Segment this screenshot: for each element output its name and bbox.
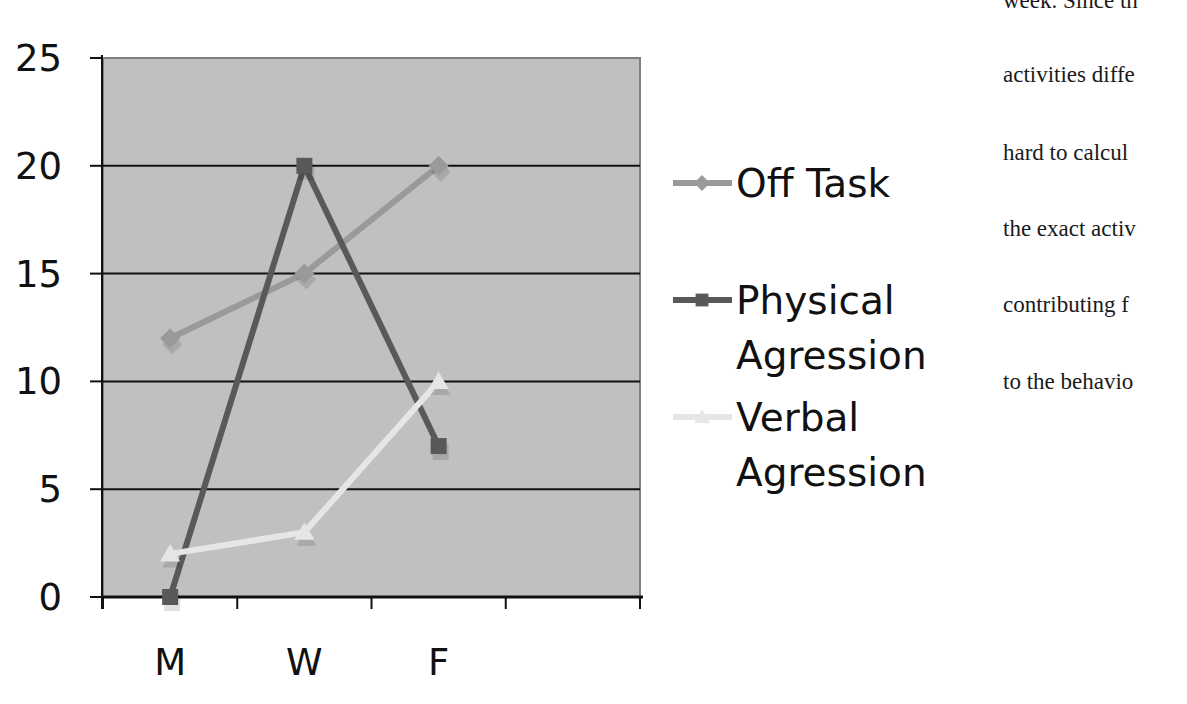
legend-label: Agression <box>736 450 927 495</box>
y-tick-label: 25 <box>15 37 62 80</box>
legend: Off TaskPhysicalAgressionVerbalAgression <box>673 161 927 495</box>
square-marker-icon <box>162 589 178 605</box>
x-tick-label: W <box>286 641 323 684</box>
y-tick-label: 0 <box>38 576 62 619</box>
plot-background <box>103 58 640 597</box>
text-line: contributing f <box>1003 292 1129 318</box>
y-tick-label: 5 <box>38 468 62 511</box>
text-line: activities diffe <box>1003 62 1135 88</box>
y-tick-label: 15 <box>15 253 62 296</box>
square-marker-icon <box>431 438 447 454</box>
legend-label: Off Task <box>736 161 891 206</box>
legend-label: Agression <box>736 333 927 378</box>
line-chart: 0510152025 MWF Off TaskPhysicalAgression… <box>0 0 1187 704</box>
x-axis-tick-labels: MWF <box>154 641 449 684</box>
diamond-marker-icon <box>694 175 710 191</box>
x-tick-label: M <box>154 641 186 684</box>
legend-item: VerbalAgression <box>673 395 927 495</box>
legend-label: Physical <box>736 278 895 323</box>
y-tick-label: 10 <box>15 360 62 403</box>
plot-area <box>103 58 640 597</box>
legend-item: Off Task <box>673 161 891 206</box>
text-line: to the behavio <box>1003 369 1133 395</box>
text-line: hard to calcul <box>1003 140 1128 166</box>
y-axis-tick-labels: 0510152025 <box>15 37 62 619</box>
text-line: the exact activ <box>1003 216 1136 242</box>
square-marker-icon <box>696 294 709 307</box>
text-line: week. Since th <box>1003 0 1138 14</box>
x-tick-label: F <box>428 641 449 684</box>
y-tick-label: 20 <box>15 145 62 188</box>
square-marker-icon <box>296 158 312 174</box>
legend-label: Verbal <box>736 395 859 440</box>
legend-item: PhysicalAgression <box>673 278 927 378</box>
